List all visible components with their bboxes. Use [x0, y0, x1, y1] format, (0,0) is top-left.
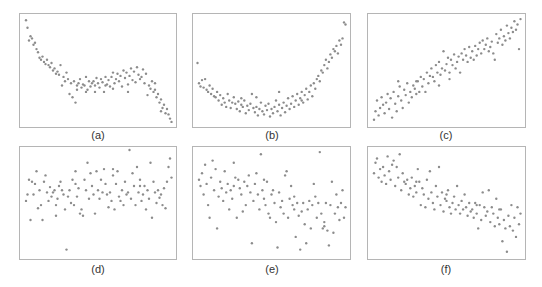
data-point	[415, 191, 417, 193]
data-point	[284, 111, 286, 113]
data-point	[406, 179, 408, 181]
data-point	[28, 179, 30, 181]
data-point	[254, 183, 256, 185]
data-point	[124, 181, 126, 183]
data-point	[382, 104, 384, 106]
data-point	[506, 24, 508, 26]
data-point	[504, 227, 506, 229]
data-point	[296, 202, 298, 204]
data-point	[293, 106, 295, 108]
data-point	[119, 75, 121, 77]
data-point	[408, 193, 410, 195]
data-point	[35, 170, 37, 172]
data-point	[305, 242, 307, 244]
data-point	[273, 202, 275, 204]
data-point	[344, 23, 346, 25]
data-point	[495, 33, 497, 35]
data-point	[513, 217, 515, 219]
data-point	[237, 179, 239, 181]
data-point	[217, 99, 219, 101]
data-point	[500, 29, 502, 31]
data-point	[61, 84, 63, 86]
data-point	[216, 227, 218, 229]
data-point	[122, 69, 124, 71]
data-point	[386, 155, 388, 157]
data-point	[103, 168, 105, 170]
data-point	[473, 217, 475, 219]
data-point	[131, 172, 133, 174]
data-point	[67, 195, 69, 197]
data-point	[266, 181, 268, 183]
data-point	[423, 193, 425, 195]
panel-label-f: (f)	[426, 263, 466, 275]
data-point	[214, 96, 216, 98]
data-point	[146, 94, 148, 96]
scatter-points	[368, 147, 525, 259]
data-point	[207, 204, 209, 206]
data-point	[202, 193, 204, 195]
data-point	[448, 206, 450, 208]
data-point	[264, 204, 266, 206]
panel-label-d: (d)	[78, 263, 118, 275]
data-point	[73, 80, 75, 82]
data-point	[486, 210, 488, 212]
data-point	[281, 200, 283, 202]
data-point	[217, 195, 219, 197]
data-point	[92, 80, 94, 82]
data-point	[68, 93, 70, 95]
data-point	[161, 204, 163, 206]
data-point	[396, 166, 398, 168]
data-point	[208, 217, 210, 219]
data-point	[104, 183, 106, 185]
data-point	[320, 212, 322, 214]
data-point	[267, 212, 269, 214]
data-point	[423, 78, 425, 80]
data-point	[465, 206, 467, 208]
data-point	[414, 88, 416, 90]
scatter-points	[193, 14, 350, 127]
data-point	[26, 27, 28, 29]
data-point	[43, 181, 45, 183]
data-point	[492, 212, 494, 214]
scatter-points	[368, 14, 525, 127]
data-point	[52, 191, 54, 193]
data-point	[112, 88, 114, 90]
data-point	[380, 181, 382, 183]
data-point	[474, 45, 476, 47]
data-point	[46, 59, 48, 61]
data-point	[154, 82, 156, 84]
data-point	[62, 193, 64, 195]
data-point	[167, 166, 169, 168]
data-point	[403, 89, 405, 91]
data-point	[389, 97, 391, 99]
data-point	[483, 206, 485, 208]
data-point	[109, 85, 111, 87]
data-point	[258, 208, 260, 210]
data-point	[328, 61, 330, 63]
data-point	[86, 89, 88, 91]
data-point	[308, 91, 310, 93]
data-point	[139, 78, 141, 80]
data-point	[301, 91, 303, 93]
data-point	[224, 170, 226, 172]
data-point	[219, 181, 221, 183]
data-point	[323, 221, 325, 223]
data-point	[501, 240, 503, 242]
data-point	[417, 168, 419, 170]
data-point	[293, 195, 295, 197]
data-point	[67, 78, 69, 80]
data-point	[214, 168, 216, 170]
data-point	[248, 109, 250, 111]
data-point	[415, 80, 417, 82]
data-point	[231, 198, 233, 200]
data-point	[227, 183, 229, 185]
data-point	[79, 212, 81, 214]
data-point	[415, 93, 417, 95]
data-point	[326, 229, 328, 231]
data-point	[453, 195, 455, 197]
data-point	[471, 208, 473, 210]
data-point	[287, 217, 289, 219]
data-point	[397, 176, 399, 178]
data-point	[301, 210, 303, 212]
data-point	[151, 80, 153, 82]
